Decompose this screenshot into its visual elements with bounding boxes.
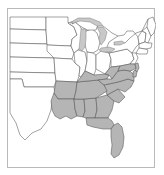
state-delmarva-tip <box>133 70 137 77</box>
state-florida-panhandle <box>86 118 114 129</box>
state-florida-peninsula <box>111 123 124 158</box>
state-michigan-lower <box>84 29 100 53</box>
us-region-map <box>8 9 156 169</box>
state-south-dakota <box>10 29 47 44</box>
state-north-dakota <box>10 17 46 30</box>
state-kansas <box>10 57 55 73</box>
map-figure-root: Shaded region Unshaded region <box>0 0 164 175</box>
map-frame-border: Shaded region Unshaded region <box>7 8 155 168</box>
state-alabama <box>83 98 97 118</box>
state-texas <box>10 79 55 140</box>
state-arkansas <box>54 81 77 99</box>
